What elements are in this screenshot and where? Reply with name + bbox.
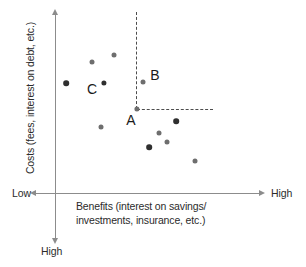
data-point-C xyxy=(101,80,106,85)
point-label-a: A xyxy=(126,112,135,128)
data-point-A xyxy=(134,106,139,111)
point-label-b: B xyxy=(150,67,159,83)
y-axis-high-label: High xyxy=(41,245,62,257)
data-point-p11 xyxy=(146,144,152,150)
data-point-p3 xyxy=(63,80,69,86)
data-point-p9 xyxy=(157,131,162,136)
x-axis-arrow-right-icon xyxy=(259,190,265,196)
cost-benefit-scatter-chart: Costs (fees, interest on debt, etc.) Ben… xyxy=(0,0,306,267)
data-point-p7 xyxy=(99,125,104,130)
y-axis-line xyxy=(55,14,56,240)
data-point-p8 xyxy=(173,118,179,124)
data-point-p10 xyxy=(165,140,170,145)
x-axis-title: Benefits (interest on savings/ investmen… xyxy=(76,199,256,227)
data-point-B xyxy=(141,80,146,85)
guide-line-horizontal xyxy=(137,109,213,110)
y-axis-title: Costs (fees, interest on debt, etc.) xyxy=(24,12,36,184)
data-point-p1 xyxy=(112,53,117,58)
y-axis-arrow-down-icon xyxy=(52,238,58,244)
data-point-p12 xyxy=(193,159,198,164)
guide-line-vertical xyxy=(136,12,137,109)
data-point-p2 xyxy=(90,60,95,65)
x-axis-low-label: Low xyxy=(12,187,31,199)
y-axis-arrow-up-icon xyxy=(52,9,58,15)
x-axis-line xyxy=(34,193,262,194)
point-label-c: C xyxy=(87,81,97,97)
x-axis-high-label: High xyxy=(271,187,292,199)
